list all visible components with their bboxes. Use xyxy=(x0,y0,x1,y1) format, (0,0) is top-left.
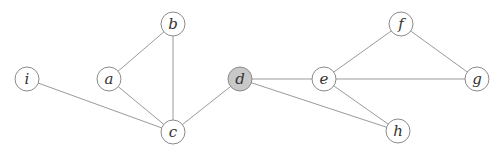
node-label: d xyxy=(235,70,245,88)
node-label: b xyxy=(168,15,178,33)
edge-e-h xyxy=(324,79,398,131)
node-c: c xyxy=(161,120,185,144)
node-layer: iabcdefgh xyxy=(15,12,489,144)
node-label: g xyxy=(472,70,482,88)
node-label: a xyxy=(105,70,114,88)
node-label: c xyxy=(169,123,178,141)
node-a: a xyxy=(97,67,121,91)
node-label: i xyxy=(25,70,30,88)
node-label: e xyxy=(320,70,329,88)
node-d: d xyxy=(228,67,252,91)
node-g: g xyxy=(465,67,489,91)
node-b: b xyxy=(161,12,185,36)
node-label: h xyxy=(393,122,403,140)
node-e: e xyxy=(312,67,336,91)
edge-e-f xyxy=(324,24,401,79)
graph-diagram: iabcdefgh xyxy=(0,0,500,154)
node-i: i xyxy=(15,67,39,91)
edge-a-b xyxy=(109,24,173,79)
edge-c-d xyxy=(173,79,240,132)
edge-f-g xyxy=(401,24,477,79)
node-h: h xyxy=(386,119,410,143)
node-f: f xyxy=(389,12,413,36)
